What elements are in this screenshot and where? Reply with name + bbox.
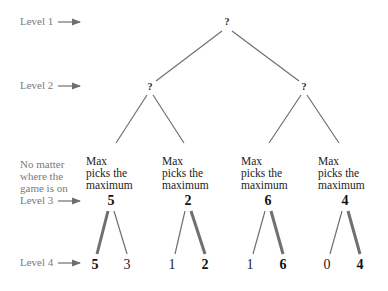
level-2-label: Level 2 <box>20 79 53 91</box>
caption-line: maximum <box>241 179 288 191</box>
leaf-value: 5 <box>92 257 99 273</box>
caption-line: picks the <box>241 167 288 179</box>
level3-value-2: 2 <box>185 193 192 209</box>
level-3-label: Level 3 <box>20 194 53 206</box>
level2-node-right: ? <box>302 81 307 92</box>
caption-line: Max <box>86 155 133 167</box>
caption-line: maximum <box>162 179 209 191</box>
leaf-value: 6 <box>280 257 287 273</box>
tree-edges <box>0 0 388 291</box>
caption-line: Max <box>241 155 288 167</box>
leaf-value: 0 <box>324 257 331 273</box>
level-4-label: Level 4 <box>20 256 53 268</box>
leaf-value: 4 <box>357 257 364 273</box>
max-caption-1: Max picks the maximum <box>86 155 133 191</box>
max-caption-2: Max picks the maximum <box>162 155 209 191</box>
caption-line: Max <box>318 155 365 167</box>
caption-line: Max <box>162 155 209 167</box>
caption-line: maximum <box>86 179 133 191</box>
caption-line: picks the <box>86 167 133 179</box>
leaf-value: 2 <box>202 257 209 273</box>
note-line: game is on <box>20 182 68 194</box>
level-1-label: Level 1 <box>20 15 53 27</box>
level3-value-1: 5 <box>108 193 115 209</box>
level2-node-left: ? <box>148 81 153 92</box>
game-tree-diagram: Level 1 Level 2 No matter where the game… <box>0 0 388 291</box>
level1-node: ? <box>225 16 230 27</box>
caption-line: picks the <box>318 167 365 179</box>
max-caption-3: Max picks the maximum <box>241 155 288 191</box>
caption-line: picks the <box>162 167 209 179</box>
note-line: where the <box>20 170 68 182</box>
leaf-value: 1 <box>169 257 176 273</box>
level-3-note: No matter where the game is on <box>20 158 68 194</box>
level3-value-3: 6 <box>265 193 272 209</box>
max-caption-4: Max picks the maximum <box>318 155 365 191</box>
leaf-value: 3 <box>124 257 131 273</box>
level3-value-4: 4 <box>342 193 349 209</box>
note-line: No matter <box>20 158 68 170</box>
caption-line: maximum <box>318 179 365 191</box>
leaf-value: 1 <box>247 257 254 273</box>
